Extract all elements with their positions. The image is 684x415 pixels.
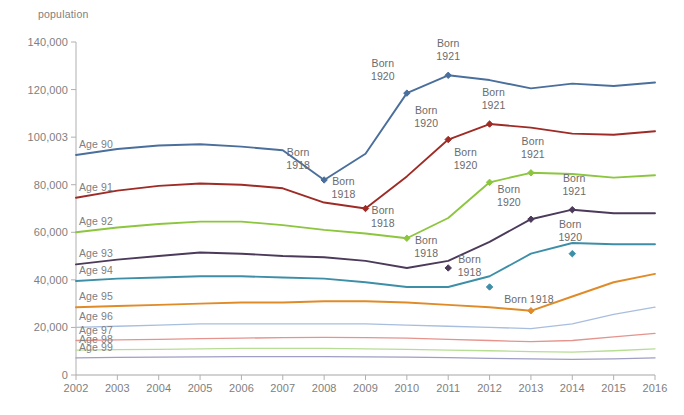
series-line-age-95 [76,274,655,311]
series-label-age-92: Age 92 [79,215,113,227]
x-tick-label: 2013 [518,382,543,394]
data-point-marker [569,206,575,212]
x-tick-label: 2016 [643,382,668,394]
data-point-marker [528,308,534,314]
data-point-marker [528,170,534,176]
annotation-line-1: Born [454,146,478,159]
annotation-line-2: 1920 [558,231,582,244]
x-tick-label: 2008 [312,382,337,394]
data-point-marker [445,265,451,271]
annotation-born-label: Born1918 [414,234,438,260]
x-tick-label: 2010 [394,382,419,394]
annotation-born-label: Born1920 [371,57,395,83]
annotation-line-1: Born [482,86,506,99]
annotation-born-label: Born1918 [332,175,356,201]
x-tick-label: 2015 [601,382,626,394]
annotation-line-2: 1920 [371,70,395,83]
annotation-born-label: Born1920 [414,104,438,130]
annotation-line-2: 1918 [332,188,356,201]
x-tick-label: 2009 [353,382,378,394]
x-tick-label: 2012 [477,382,502,394]
annotation-born-label: Born1918 [458,253,482,279]
annotation-born-label: Born1921 [482,86,506,112]
series-label-age-96: Age 96 [79,310,113,322]
annotation-line-1: Born [436,37,460,50]
series-line-age-90 [76,75,655,180]
annotation-line-2: 1921 [482,99,506,112]
annotation-line-2: 1921 [436,50,460,63]
population-line-chart: population 140,000120,000100,00380,00060… [0,0,684,415]
annotation-born-label: Born1920 [454,146,478,172]
annotation-born-label: Born 1918 [504,293,553,306]
annotation-line-1: Born [332,175,356,188]
annotation-line-1: Born [371,204,395,217]
annotation-born-label: Born1921 [521,135,545,161]
x-tick-label: 2011 [436,382,460,394]
annotation-line-1: Born [521,135,545,148]
annotation-line-2: 1921 [562,185,586,198]
annotation-line-1: Born [562,172,586,185]
annotation-line-2: 1921 [521,148,545,161]
annotation-born-label: Born1921 [436,37,460,63]
series-line-age-96 [76,307,655,328]
annotation-line-2: 1920 [414,117,438,130]
series-label-age-91: Age 91 [79,181,113,193]
annotation-line-2: 1920 [497,196,521,209]
annotation-line-1: Born [414,234,438,247]
series-line-age-94 [76,243,655,287]
x-tick-label: 2004 [146,382,171,394]
series-line-age-99 [76,357,655,360]
annotation-line-2: 1918 [371,217,395,230]
annotation-born-label: Born1920 [497,183,521,209]
x-tick-label: 2003 [105,382,130,394]
series-line-age-97 [76,333,655,341]
x-tick-label: 2002 [64,382,89,394]
annotation-line-2: 1918 [414,247,438,260]
annotation-line-1: Born [286,146,310,159]
data-point-marker [445,72,451,78]
annotation-line-2: 1918 [458,266,482,279]
series-label-age-94: Age 94 [79,264,113,276]
annotation-born-label: Born1920 [558,218,582,244]
x-tick-label: 2006 [229,382,254,394]
annotation-line-2: 1918 [286,159,310,172]
x-tick-label: 2005 [188,382,213,394]
data-point-marker [569,250,575,256]
annotation-line-1: Born [458,253,482,266]
annotation-line-1: Born [414,104,438,117]
series-label-age-95: Age 95 [79,290,113,302]
series-label-age-99: Age 99 [79,341,113,353]
annotation-line-2: 1920 [454,159,478,172]
x-tick-label: 2007 [270,382,295,394]
annotation-born-label: Born1921 [562,172,586,198]
series-label-age-93: Age 93 [79,247,113,259]
annotation-line-1: Born [558,218,582,231]
data-point-marker [486,121,492,127]
annotation-line-1: Born [371,57,395,70]
series-label-age-90: Age 90 [79,138,113,150]
annotation-line-1: Born [497,183,521,196]
data-point-marker [404,235,410,241]
data-point-marker [486,284,492,290]
series-line-age-98 [76,348,655,352]
x-tick-label: 2014 [560,382,585,394]
annotation-born-label: Born1918 [371,204,395,230]
annotation-born-label: Born1918 [286,146,310,172]
